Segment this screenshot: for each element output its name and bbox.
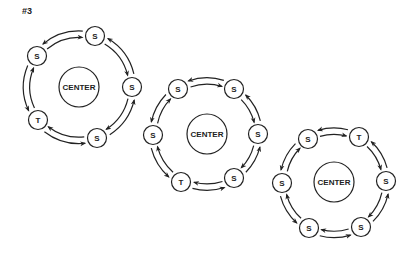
node-t: T [172,173,191,192]
node-label: S [358,223,364,232]
node-label: S [305,135,311,144]
node-s: S [273,174,292,193]
inner-arrow [320,134,346,136]
outer-arrow [151,148,169,177]
outer-arrow [23,65,28,110]
node-s: S [225,169,244,188]
inner-arrow [321,229,348,231]
inner-arrow [47,37,82,49]
node-label: T [357,133,362,142]
node-label: T [179,178,184,187]
inner-arrow [191,84,222,87]
outer-arrow [192,188,224,191]
inner-arrow [106,99,128,130]
node-label: S [129,83,135,92]
node-s: S [144,126,163,145]
node-t: T [29,111,48,130]
center-label: CENTER [191,130,224,139]
node-label: S [231,174,237,183]
node-s: S [169,80,188,99]
node-label: T [36,116,41,125]
outer-arrow [110,100,134,135]
node-s: S [299,130,318,149]
center-label: CENTER [63,83,96,92]
diagram-3: CENTERSTSSSS [273,128,396,238]
inner-arrow [30,68,35,108]
inner-arrow [157,147,173,173]
node-s: S [28,47,47,66]
diagram-2: CENTERSSSSTS [144,78,268,192]
outer-arrow [320,235,351,238]
node-label: S [92,32,98,41]
diagram-1: CENTERSSSTS [23,27,141,148]
node-t: T [350,128,369,147]
node-s: S [123,78,142,97]
node-s: S [249,125,268,144]
outer-arrow [188,78,223,81]
node-label: S [306,224,312,233]
outer-arrow [108,39,134,74]
node-s: S [377,172,396,191]
node-s: S [86,27,105,46]
inner-arrow [105,44,128,75]
node-label: S [255,130,261,139]
node-label: S [175,85,181,94]
node-s: S [352,218,371,237]
ring-diagrams: CENTERSSSTSCENTERSSSSTSCENTERSTSSSS [0,0,419,254]
outer-arrow [318,128,348,130]
node-label: S [231,85,237,94]
inner-arrow [194,181,222,183]
node-label: S [150,131,156,140]
node-label: S [34,52,40,61]
node-label: S [279,179,285,188]
node-s: S [88,129,107,148]
inner-arrow [48,127,84,137]
node-s: S [225,80,244,99]
node-s: S [300,219,319,238]
center-label: CENTER [318,178,351,187]
node-label: S [383,177,389,186]
node-label: S [94,134,100,143]
